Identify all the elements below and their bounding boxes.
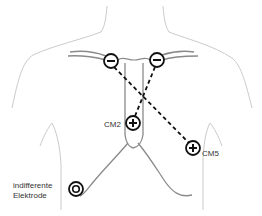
electrode-right-negative[interactable] bbox=[150, 53, 164, 67]
clavicle-right-upper bbox=[162, 51, 194, 55]
armpit-right bbox=[203, 123, 222, 210]
clavicle-right-lower bbox=[162, 56, 198, 60]
label-indifferent-line2: Elektrode bbox=[13, 191, 47, 200]
manubrium bbox=[118, 58, 150, 60]
sternum bbox=[125, 63, 143, 148]
neck-left bbox=[101, 6, 107, 32]
costal-arch-right bbox=[138, 143, 192, 196]
clavicles bbox=[68, 51, 198, 60]
neck-right bbox=[163, 6, 169, 32]
electrode-left-negative[interactable] bbox=[104, 54, 118, 68]
label-indifferent-line1: indifferente bbox=[13, 181, 53, 190]
chest-electrode-diagram: CM2 CM5 indifferente Elektrode bbox=[0, 0, 262, 216]
electrode-cm2-positive[interactable] bbox=[126, 116, 140, 130]
sternum-left-edge bbox=[125, 63, 133, 148]
body-outline bbox=[12, 6, 252, 210]
costal-arch bbox=[80, 143, 192, 196]
clavicle-left-lower bbox=[68, 56, 106, 60]
electrode-cm5-positive[interactable] bbox=[186, 141, 200, 155]
label-cm5: CM5 bbox=[202, 149, 219, 158]
costal-arch-left bbox=[80, 143, 128, 196]
shoulder-left bbox=[12, 32, 101, 108]
label-cm2: CM2 bbox=[104, 120, 121, 129]
shoulder-right bbox=[169, 32, 252, 108]
electrode-indifferent[interactable] bbox=[69, 182, 83, 196]
sternum-right-edge bbox=[133, 63, 143, 148]
lead-right-negative-to-cm2 bbox=[135, 67, 155, 116]
